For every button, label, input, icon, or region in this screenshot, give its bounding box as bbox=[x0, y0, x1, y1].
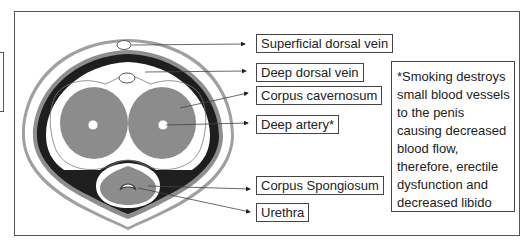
deep-artery-left bbox=[88, 120, 98, 130]
label-corpus-spongiosum: Corpus Spongiosum bbox=[256, 176, 384, 195]
label-superficial-dorsal-vein: Superficial dorsal vein bbox=[256, 34, 393, 53]
note-line: dysfunction and bbox=[397, 176, 509, 194]
note-line: blood flow, bbox=[397, 140, 509, 158]
note-line: causing decreased bbox=[397, 122, 509, 140]
superficial-dorsal-vein bbox=[117, 41, 131, 50]
deep-dorsal-vein bbox=[119, 73, 135, 83]
label-urethra: Urethra bbox=[256, 203, 309, 222]
note-line: small blood vessels bbox=[397, 86, 509, 104]
smoking-note-box: *Smoking destroys small blood vessels to… bbox=[391, 61, 515, 212]
label-deep-dorsal-vein: Deep dorsal vein bbox=[256, 63, 364, 82]
note-line: therefore, erectile bbox=[397, 158, 509, 176]
note-line: *Smoking destroys bbox=[397, 68, 509, 86]
note-line: to the penis bbox=[397, 104, 509, 122]
label-deep-artery: Deep artery* bbox=[256, 115, 339, 134]
note-line: decreased libido bbox=[397, 194, 509, 212]
label-corpus-cavernosum: Corpus cavernosum bbox=[256, 86, 382, 105]
